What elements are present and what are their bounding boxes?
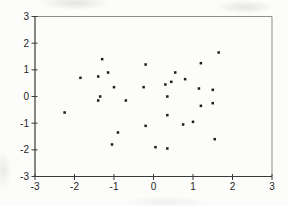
data-point (166, 114, 169, 117)
data-point (101, 58, 104, 61)
plot-box-border (35, 17, 272, 177)
data-point (200, 62, 203, 65)
data-point (184, 78, 187, 81)
x-tick-label: -3 (31, 181, 40, 192)
y-tick-label: 1 (23, 64, 29, 75)
data-point (170, 81, 173, 84)
y-tick-label: 3 (23, 11, 29, 22)
y-tick-label: 2 (23, 38, 29, 49)
data-point (212, 102, 215, 105)
data-point (154, 146, 157, 149)
data-point (182, 123, 185, 126)
data-point (166, 147, 169, 150)
data-point (113, 86, 116, 89)
data-point (125, 99, 128, 102)
y-tick-label: -2 (20, 144, 29, 155)
data-point (212, 89, 215, 92)
data-point (111, 143, 114, 146)
scatter-plot-figure: -3-2-101233210-1-2-3 (0, 0, 288, 206)
x-tick-label: 2 (230, 181, 236, 192)
data-point (217, 51, 220, 54)
data-point (174, 71, 177, 74)
data-point (99, 95, 102, 98)
x-tick-label: 0 (151, 181, 157, 192)
x-tick-label: -1 (110, 181, 119, 192)
axis-lines (35, 17, 272, 177)
y-tick-label: -1 (20, 118, 29, 129)
data-point (144, 63, 147, 66)
data-point (117, 131, 120, 134)
x-tick-label: 3 (269, 181, 275, 192)
data-point (142, 86, 145, 89)
data-point (144, 125, 147, 128)
x-tick-label: -2 (70, 181, 79, 192)
data-point (200, 105, 203, 108)
data-point (192, 121, 195, 124)
data-point (97, 75, 100, 78)
data-point (198, 87, 201, 90)
data-point (63, 111, 66, 114)
scatter-plot: -3-2-101233210-1-2-3 (0, 0, 288, 206)
data-point (166, 95, 169, 98)
data-point (79, 77, 82, 80)
data-point (213, 138, 216, 141)
y-tick-label: -3 (20, 171, 29, 182)
data-point (164, 83, 167, 86)
y-tick-label: 0 (23, 91, 29, 102)
data-point (107, 71, 110, 74)
data-point (97, 99, 100, 102)
x-tick-label: 1 (190, 181, 196, 192)
